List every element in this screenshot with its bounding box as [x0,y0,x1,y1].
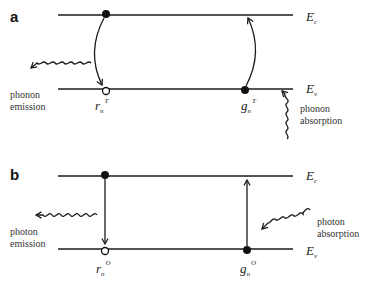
electron-icon [102,10,110,18]
photon-absorption-wave-icon [262,209,310,229]
panel-label-b: b [10,166,19,183]
emission-label-line1: phonon [10,89,40,100]
absorption-label-line1: photon [317,216,345,227]
hole-icon [103,88,110,95]
rate-label-r-thermal: rnT [95,97,110,115]
panel-a: a Ec Ev rnT gnT phonon emission phonon a… [10,8,342,139]
rate-label-r-optical: rnO [96,259,111,278]
electron-icon [101,171,109,179]
emission-label-line2: emission [10,101,46,112]
generation-arrow-icon [246,18,256,86]
hole-icon [102,248,109,255]
absorption-label-line2: absorption [317,228,359,239]
rate-label-g-optical: gnO [240,259,256,278]
band-label-ev: Ev [305,81,318,98]
electron-icon [243,246,251,254]
band-label-ec: Ec [305,168,318,185]
recombination-arrow-icon [94,18,104,85]
absorption-label-line2: absorption [300,115,342,126]
phonon-emission-wave-icon [31,62,91,68]
emission-label-line2: emission [10,238,46,249]
absorption-label-line1: phonon [300,103,330,114]
band-diagram: a Ec Ev rnT gnT phonon emission phonon a… [0,0,369,286]
rate-label-g-thermal: gnT [241,97,257,115]
phonon-absorption-wave-icon [282,91,288,139]
band-label-ev: Ev [305,243,318,260]
electron-icon [241,86,249,94]
panel-label-a: a [10,8,19,25]
photon-emission-wave-icon [36,214,97,217]
band-label-ec: Ec [305,9,318,26]
emission-label-line1: photon [10,226,38,237]
panel-b: b Ec Ev rnO gnO photon emission photon a… [10,166,359,278]
